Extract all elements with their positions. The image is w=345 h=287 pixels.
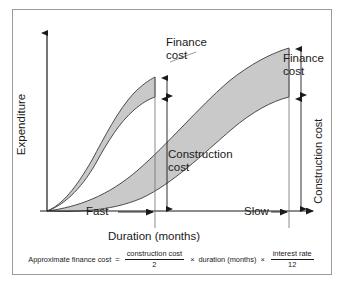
formula-term-3-numerator: interest rate <box>271 249 314 260</box>
formula-term-1-numerator: construction cost <box>125 249 184 260</box>
formula-term-1-denominator: 2 <box>152 260 156 270</box>
y-axis-label: Expenditure <box>15 79 28 169</box>
slow-marker-label: Slow <box>244 205 269 218</box>
formula-operator-1: × <box>189 255 195 264</box>
x-axis-label: Duration (months) <box>108 230 200 243</box>
finance-cost-label-slow: Finance cost <box>283 52 324 78</box>
finance-cost-label-fast: Finance cost <box>166 36 207 62</box>
fast-marker-label: Fast <box>86 205 108 218</box>
formula-term-1: construction cost 2 <box>125 249 184 269</box>
construction-cost-label-fast: Construction cost <box>168 148 233 174</box>
formula-term-2: duration (months) <box>198 255 256 264</box>
finance-cost-formula: Approximate finance cost = construction … <box>16 249 328 269</box>
formula-term-3: interest rate 12 <box>271 249 314 269</box>
formula-operator-2: × <box>259 255 265 264</box>
formula-term-3-denominator: 12 <box>288 260 296 270</box>
construction-cost-label-slow: Construction cost <box>312 111 324 211</box>
figure-root: Expenditure Duration (months) Finance co… <box>0 0 345 287</box>
formula-lead: Approximate finance cost = <box>28 255 119 264</box>
slow-expenditure-band <box>47 48 289 211</box>
